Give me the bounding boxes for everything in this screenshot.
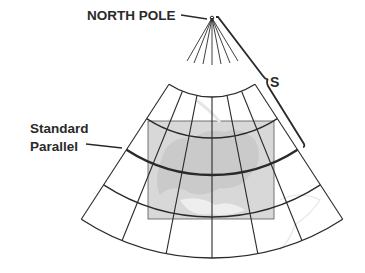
north-pole-leader — [181, 15, 207, 19]
europe-map-inset — [148, 100, 320, 250]
parallel-line — [169, 84, 255, 97]
conic-projection-diagram: S NORTH POLE Standard Parallel — [0, 0, 365, 273]
slant-distance-label: S — [270, 74, 279, 90]
projection-graticule — [81, 84, 342, 258]
north-pole-label: NORTH POLE — [87, 8, 176, 23]
standard-parallel-label-line1: Standard — [30, 121, 89, 136]
standard-parallel-leader — [86, 144, 122, 148]
standard-parallel-label-line2: Parallel — [30, 139, 78, 154]
pole-meridian-rays — [187, 18, 238, 65]
